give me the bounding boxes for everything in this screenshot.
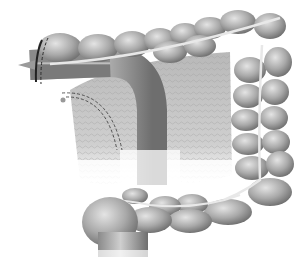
colon-illustration	[0, 0, 304, 263]
transverse-colon	[38, 10, 286, 64]
